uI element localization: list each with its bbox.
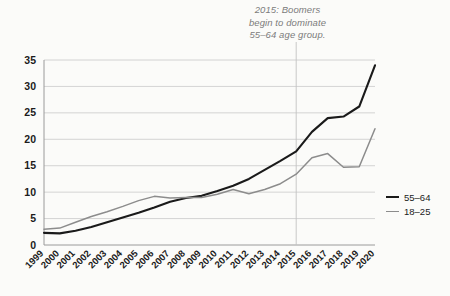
chart-legend: 55–64 18–25 [386, 190, 430, 218]
chart-container: 2015: Boomers begin to dominate 55–64 ag… [0, 0, 450, 296]
chart-annotation: 2015: Boomers begin to dominate 55–64 ag… [215, 4, 360, 42]
series-line-55-64 [44, 65, 375, 233]
legend-label: 18–25 [404, 206, 430, 217]
line-chart-plot: 0510152025303519992000200120022003200420… [0, 0, 450, 296]
legend-line-swatch-icon [386, 196, 399, 198]
y-axis-tick-label: 5 [30, 212, 36, 224]
legend-label: 55–64 [404, 192, 430, 203]
legend-line-swatch-icon [386, 211, 399, 212]
y-axis-tick-label: 20 [24, 133, 36, 145]
y-axis-tick-label: 25 [24, 106, 36, 118]
x-axis-tick-label: 2020 [354, 248, 377, 271]
legend-item-18-25[interactable]: 18–25 [386, 204, 430, 218]
series-line-18-25 [44, 129, 375, 229]
legend-item-55-64[interactable]: 55–64 [386, 190, 430, 204]
y-axis-tick-label: 10 [24, 186, 36, 198]
y-axis-tick-label: 35 [24, 54, 36, 66]
y-axis-tick-label: 30 [24, 80, 36, 92]
y-axis-tick-label: 15 [24, 159, 36, 171]
